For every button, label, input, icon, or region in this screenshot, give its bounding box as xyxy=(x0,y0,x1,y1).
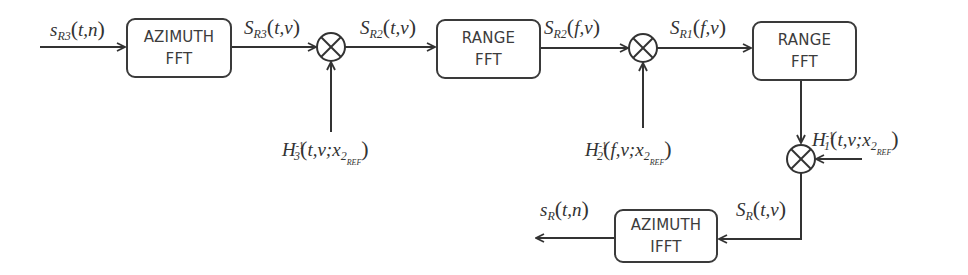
range-fft-block-1: RANGE FFT xyxy=(436,19,541,79)
signal-s5-label: SR(t,ν) xyxy=(736,196,786,224)
signal-s3-label: SR2(f,ν) xyxy=(544,14,600,42)
block-label-line2: FFT xyxy=(475,49,502,71)
range-fft-block-2: RANGE FFT xyxy=(752,21,857,81)
filter-h2-label: H-12(f,ν;x2REF) xyxy=(585,136,672,167)
multiplier-1 xyxy=(317,33,345,61)
block-label-line2: IFFT xyxy=(650,236,681,258)
azimuth-ifft-block: AZIMUTH IFFT xyxy=(614,209,718,263)
signal-s4-label: SR1(f,ν) xyxy=(670,14,726,42)
block-label-line1: AZIMUTH xyxy=(144,26,215,48)
signal-s2-label: SR2(t,ν) xyxy=(360,14,416,42)
block-label-line1: RANGE xyxy=(778,29,831,51)
block-label-line1: AZIMUTH xyxy=(631,214,702,236)
signal-output-label: sR(t,n) xyxy=(540,196,589,224)
signal-input-label: sR3(t,n) xyxy=(50,16,105,44)
block-label-line1: RANGE xyxy=(462,27,515,49)
block-label-line2: FFT xyxy=(791,51,818,73)
filter-h3-label: H-13(t,ν;x2REF) xyxy=(282,136,369,167)
multiplier-2 xyxy=(629,34,657,62)
filter-h1-label: H-11(t,ν;x2REF) xyxy=(812,126,899,157)
block-label-line2: FFT xyxy=(166,48,193,70)
azimuth-fft-block: AZIMUTH FFT xyxy=(126,18,232,78)
multiplier-3 xyxy=(787,145,815,173)
signal-s1-label: SR3(t,ν) xyxy=(244,14,300,42)
